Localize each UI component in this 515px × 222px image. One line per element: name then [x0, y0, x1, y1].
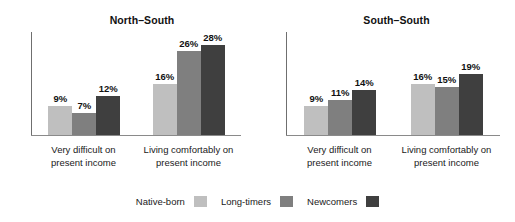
bar-slot: 15% [435, 32, 459, 135]
bar-value-label: 9% [53, 93, 67, 104]
bar-value-label: 15% [437, 74, 456, 85]
bar-value-label: 16% [413, 71, 432, 82]
category-label-very-difficult: Very difficult on present income [31, 140, 136, 174]
bar-slot: 12% [96, 32, 120, 135]
bar-newcomers [201, 45, 225, 135]
bar-group-living-comfortably-right: 16% 15% 19% [394, 32, 501, 135]
bar-value-label: 28% [203, 32, 222, 43]
category-label-line1: Very difficult on [286, 143, 393, 156]
legend-swatch-native-born [194, 196, 207, 207]
bar-value-label: 16% [155, 71, 174, 82]
plot-area-north-south: 9% 7% 12% 16 [31, 32, 241, 136]
legend-entry-long-timers: Long-timers [221, 196, 293, 207]
bar-native-born [411, 84, 435, 136]
bar-long-timers [72, 113, 96, 136]
panel-title-north-south: North–South [0, 14, 262, 26]
x-axis-line-left [31, 135, 241, 136]
bar-newcomers [459, 74, 483, 135]
bar-native-born [304, 106, 328, 135]
category-label-living-comfortably: Living comfortably on present income [136, 140, 241, 174]
bar-value-label: 11% [331, 87, 350, 98]
bar-slot: 16% [411, 32, 435, 135]
category-label-line2: present income [31, 156, 136, 169]
bar-slot: 9% [48, 32, 72, 135]
bar-slot: 7% [72, 32, 96, 135]
bar-group-living-comfortably-left: 16% 26% 28% [137, 32, 242, 135]
bar-long-timers [328, 100, 352, 135]
bar-native-born [153, 84, 177, 136]
panel-title-south-south: South–South [262, 14, 515, 26]
category-label-line2: present income [136, 156, 241, 169]
bar-slot: 11% [328, 32, 352, 135]
category-label-line2: present income [286, 156, 393, 169]
legend-label-native-born: Native-born [136, 196, 185, 207]
bar-slot: 16% [153, 32, 177, 135]
category-label-line1: Living comfortably on [393, 143, 500, 156]
legend-swatch-newcomers [366, 196, 379, 207]
category-label-line1: Living comfortably on [136, 143, 241, 156]
bar-slot: 19% [459, 32, 483, 135]
x-axis-line-right [286, 135, 500, 136]
legend-entry-newcomers: Newcomers [307, 196, 379, 207]
legend-label-newcomers: Newcomers [307, 196, 357, 207]
category-label-very-difficult: Very difficult on present income [286, 140, 393, 174]
bar-slot: 9% [304, 32, 328, 135]
bar-value-label: 12% [99, 83, 118, 94]
legend-entry-native-born: Native-born [136, 196, 207, 207]
bar-groups-right: 9% 11% 14% 1 [287, 32, 500, 135]
chart-panel-north-south: North–South 9% 7% [0, 0, 262, 180]
category-labels-right: Very difficult on present income Living … [286, 140, 500, 174]
bar-slot: 14% [352, 32, 376, 135]
bar-value-label: 7% [77, 100, 91, 111]
bar-group-very-difficult-right: 9% 11% 14% [287, 32, 394, 135]
chart-legend: Native-born Long-timers Newcomers [0, 196, 515, 207]
chart-panels: North–South 9% 7% [0, 0, 515, 180]
bar-groups-left: 9% 7% 12% 16 [32, 32, 241, 135]
legend-swatch-long-timers [280, 196, 293, 207]
category-label-living-comfortably: Living comfortably on present income [393, 140, 500, 174]
category-labels-left: Very difficult on present income Living … [31, 140, 241, 174]
grouped-bar-chart-figure: North–South 9% 7% [0, 0, 515, 222]
category-label-line2: present income [393, 156, 500, 169]
chart-panel-south-south: South–South 9% 11% [262, 0, 515, 180]
bar-slot: 26% [177, 32, 201, 135]
bar-long-timers [177, 51, 201, 135]
bar-newcomers [352, 90, 376, 135]
bar-long-timers [435, 87, 459, 135]
category-label-line1: Very difficult on [31, 143, 136, 156]
bar-value-label: 26% [179, 38, 198, 49]
bar-group-very-difficult-left: 9% 7% 12% [32, 32, 137, 135]
bar-value-label: 19% [461, 61, 480, 72]
plot-area-south-south: 9% 11% 14% 1 [286, 32, 500, 136]
bar-value-label: 14% [355, 77, 374, 88]
bar-newcomers [96, 96, 120, 135]
bar-native-born [48, 106, 72, 135]
bar-slot: 28% [201, 32, 225, 135]
legend-label-long-timers: Long-timers [221, 196, 271, 207]
bar-value-label: 9% [309, 93, 323, 104]
